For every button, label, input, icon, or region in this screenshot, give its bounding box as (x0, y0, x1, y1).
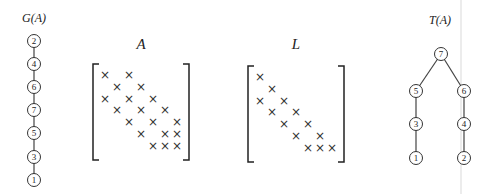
matrix-l-entry-r1-c1: × (255, 71, 265, 83)
matrix-a-entry-r2-c4: × (136, 81, 146, 93)
matrix-a-entry-r7-c6: × (160, 140, 170, 152)
matrix-l-bracket-left (248, 66, 254, 162)
tree-t-node-7: 7 (434, 47, 448, 61)
matrix-l-entry-r6-c4: × (291, 130, 301, 142)
matrix-a-entry-r4-c6: × (160, 104, 170, 116)
matrix-l-entry-r5-c3: × (279, 118, 289, 130)
graph-g-node-2: 2 (27, 34, 41, 48)
matrix-a-entry-r7-c7: × (172, 140, 182, 152)
matrix-l-entry-r4-c4: × (291, 106, 301, 118)
tree-t-node-3: 3 (409, 117, 423, 131)
matrix-a-title: A (136, 36, 145, 53)
tree-t-node-1: 1 (409, 151, 423, 165)
matrix-l-entry-r4-c2: × (267, 106, 277, 118)
graph-g-title: G(A) (22, 11, 46, 26)
matrix-a-entry-r3-c5: × (148, 93, 158, 105)
matrix-a-entry-r4-c2: × (112, 104, 122, 116)
matrix-l-entry-r7-c6: × (315, 142, 325, 154)
tree-t-node-6: 6 (457, 84, 471, 98)
tree-t-title: T(A) (429, 13, 451, 28)
matrix-a-entry-r7-c5: × (148, 140, 158, 152)
matrix-l-title: L (292, 36, 300, 53)
matrix-a-entry-r5-c5: × (148, 116, 158, 128)
matrix-l-entry-r7-c5: × (303, 142, 313, 154)
matrix-a-entry-r3-c3: × (124, 93, 134, 105)
matrix-l-entry-r3-c1: × (255, 95, 265, 107)
matrix-a-entry-r2-c2: × (112, 81, 122, 93)
matrix-l-bracket-right (338, 66, 344, 162)
matrix-a-bracket-left (93, 64, 99, 160)
tree-t-node-2: 2 (457, 151, 471, 165)
tree-t-edges (416, 54, 464, 158)
tree-t-node-5: 5 (409, 84, 423, 98)
graph-g-node-5: 5 (27, 126, 41, 140)
matrix-a-entry-r1-c3: × (124, 69, 134, 81)
matrix-l-entry-r3-c3: × (279, 95, 289, 107)
graph-g-node-7: 7 (27, 103, 41, 117)
matrix-a-entry-r5-c3: × (124, 116, 134, 128)
matrix-a-entry-r4-c4: × (136, 104, 146, 116)
graph-g-node-4: 4 (27, 57, 41, 71)
matrix-a-entry-r3-c1: × (100, 93, 110, 105)
tree-t-node-4: 4 (457, 117, 471, 131)
matrix-l-entry-r5-c5: × (303, 118, 313, 130)
matrix-l-entry-r2-c2: × (267, 83, 277, 95)
matrix-l-entry-r7-c7: × (327, 142, 337, 154)
matrix-a-bracket-right (183, 64, 189, 160)
matrix-a-entry-r1-c1: × (100, 69, 110, 81)
graph-g-node-3: 3 (27, 150, 41, 164)
graph-g-node-6: 6 (27, 80, 41, 94)
graph-g-node-1: 1 (27, 173, 41, 187)
matrix-a-entry-r6-c4: × (136, 128, 146, 140)
